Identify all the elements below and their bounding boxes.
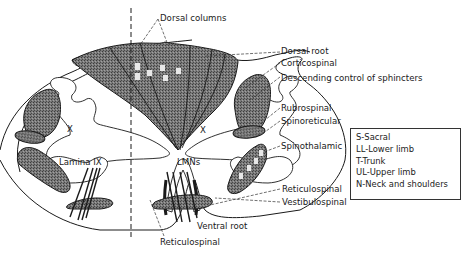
label-ventral-root: Ventral root bbox=[197, 221, 248, 231]
lamina-ix-label: Lamina IX bbox=[59, 157, 102, 167]
label-dorsal-columns: Dorsal columns bbox=[160, 13, 227, 23]
label-descending-control: Descending control of sphincters bbox=[281, 73, 423, 83]
lmns-label: LMNs bbox=[177, 157, 201, 167]
legend-item-trunk: T-Trunk bbox=[356, 156, 460, 168]
label-spinothalamic: Spinothalamic bbox=[281, 141, 342, 151]
legend-item-upper-limb: UL-Upper limb bbox=[356, 167, 460, 179]
label-dorsal-root: Dorsal root bbox=[281, 46, 329, 56]
label-rubrospinal: Rubrospinal bbox=[281, 103, 332, 113]
ventral-tract-right bbox=[152, 195, 212, 209]
label-reticulospinal-right: Reticulospinal bbox=[282, 184, 342, 194]
lamina-x-left: X bbox=[67, 124, 73, 134]
label-vestibulospinal: Vestibulospinal bbox=[282, 197, 347, 207]
legend: S-Sacral LL-Lower limb T-Trunk UL-Upper … bbox=[350, 128, 461, 200]
legend-item-sacral: S-Sacral bbox=[356, 132, 460, 144]
legend-item-neck: N-Neck and shoulders bbox=[356, 179, 460, 191]
label-corticospinal: Corticospinal bbox=[281, 58, 337, 68]
label-reticulospinal-bottom: Reticulospinal bbox=[160, 237, 220, 247]
legend-item-lower-limb: LL-Lower limb bbox=[356, 144, 460, 156]
label-spinoreticular: Spinoreticular bbox=[281, 116, 341, 126]
lamina-x-right: X bbox=[200, 125, 206, 135]
